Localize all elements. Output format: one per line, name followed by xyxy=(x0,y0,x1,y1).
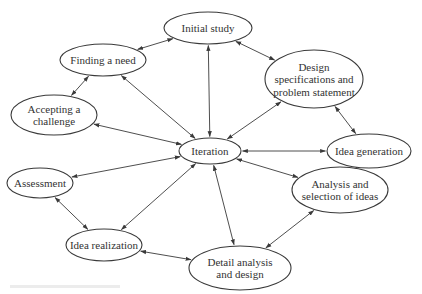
nodes-layer: Initial studyFinding a needDesignspecifi… xyxy=(7,12,411,290)
node-label: Analysis and xyxy=(311,178,369,190)
edge-iteration-to-assessment xyxy=(72,157,180,177)
node-detail-analysis: Detail analysisand design xyxy=(189,246,291,290)
node-label: Finding a need xyxy=(70,54,136,66)
edge-detail-analysis-to-idea-realization xyxy=(141,251,191,260)
cropped-caption xyxy=(10,285,120,288)
design-process-diagram: Initial studyFinding a needDesignspecifi… xyxy=(0,0,422,294)
node-label: Idea realization xyxy=(70,239,139,251)
node-label: Initial study xyxy=(182,22,235,34)
edge-iteration-to-analysis-and-selection xyxy=(237,159,298,177)
node-label: Design xyxy=(298,61,330,73)
edge-idea-realization-to-assessment xyxy=(55,198,88,230)
node-label: problem statement xyxy=(273,86,355,98)
node-label: and design xyxy=(216,268,264,280)
edge-iteration-to-idea-realization xyxy=(121,164,195,230)
node-label: specifications and xyxy=(274,73,354,85)
edge-iteration-to-accepting-a-challenge xyxy=(94,124,181,144)
edge-iteration-to-design-specifications xyxy=(227,102,281,139)
node-iteration: Iteration xyxy=(179,138,241,164)
node-finding-a-need: Finding a need xyxy=(60,44,146,76)
node-label: Iteration xyxy=(191,145,229,157)
node-initial-study: Initial study xyxy=(164,12,252,44)
edge-design-specifications-to-idea-generation xyxy=(335,107,356,134)
node-idea-realization: Idea realization xyxy=(66,229,142,261)
node-idea-generation: Idea generation xyxy=(327,134,411,168)
edge-iteration-to-detail-analysis xyxy=(214,165,234,244)
edge-analysis-and-selection-to-detail-analysis xyxy=(266,211,314,248)
node-label: challenge xyxy=(33,115,75,127)
node-label: Accepting a xyxy=(28,103,81,115)
node-label: Detail analysis xyxy=(207,256,272,268)
node-label: Assessment xyxy=(14,177,66,189)
node-label: selection of ideas xyxy=(302,190,378,202)
edge-iteration-to-finding-a-need xyxy=(121,76,195,139)
edge-initial-study-to-design-specifications xyxy=(236,41,275,60)
node-design-specifications: Designspecifications andproblem statemen… xyxy=(265,50,363,108)
node-analysis-and-selection: Analysis andselection of ideas xyxy=(292,167,388,213)
node-accepting-a-challenge: Accepting achallenge xyxy=(11,95,97,135)
edge-finding-a-need-to-initial-study xyxy=(138,39,173,50)
edge-finding-a-need-to-accepting-a-challenge xyxy=(72,76,89,95)
edge-iteration-to-initial-study xyxy=(208,46,210,137)
node-assessment: Assessment xyxy=(7,168,73,198)
node-label: Idea generation xyxy=(335,145,404,157)
